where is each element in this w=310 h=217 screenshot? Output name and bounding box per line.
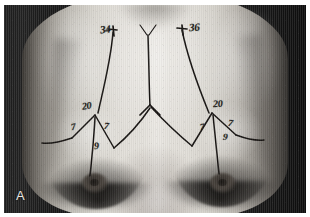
measure-label-upper-left: 34 xyxy=(99,23,110,35)
upper-left-arrowhead-b xyxy=(113,26,114,36)
figure-panel: 34 36 20 7 7 9 20 7 7 9 A xyxy=(0,0,310,217)
left-lateral-limb-to-fold xyxy=(114,108,150,148)
midline-fork-right xyxy=(149,25,156,35)
midline-fork-left xyxy=(140,25,147,35)
right-lateral-limb-to-fold xyxy=(151,107,192,146)
right-inframammary-medial-tail xyxy=(236,135,264,140)
right-vertical-limb-line xyxy=(213,115,219,174)
measure-label-right-nipple-to-fold: 9 xyxy=(223,133,228,143)
upper-right-arrowhead-b xyxy=(182,25,183,35)
upper-left-measure-line xyxy=(98,32,113,113)
panel-letter: A xyxy=(16,188,25,203)
midline-vertical xyxy=(148,35,150,105)
measure-label-right-vertical-limb: 20 xyxy=(213,99,223,110)
upper-right-measure-line xyxy=(182,30,209,113)
clinical-photograph: 34 36 20 7 7 9 20 7 7 9 A xyxy=(4,5,306,213)
measure-label-upper-right: 36 xyxy=(189,22,200,34)
measure-label-left-vertical-limb: 20 xyxy=(81,100,92,111)
surgical-ink-markings xyxy=(4,5,306,213)
left-inframammary-medial-tail xyxy=(42,138,72,143)
measure-label-left-nipple-to-fold: 9 xyxy=(94,141,99,151)
